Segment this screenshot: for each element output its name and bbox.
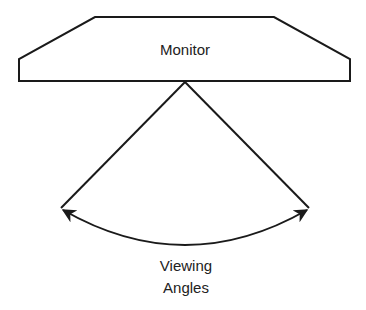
viewing-angle-arc bbox=[63, 210, 307, 245]
right-view-line bbox=[185, 82, 309, 208]
viewing-label-line1: Viewing bbox=[160, 257, 212, 274]
viewing-angle-diagram: Monitor Viewing Angles bbox=[0, 0, 366, 310]
viewing-label-line2: Angles bbox=[163, 279, 209, 296]
diagram-svg: Monitor Viewing Angles bbox=[0, 0, 366, 310]
left-view-line bbox=[61, 82, 185, 208]
monitor-label: Monitor bbox=[160, 41, 210, 58]
